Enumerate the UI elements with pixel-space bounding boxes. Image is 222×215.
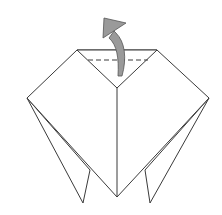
origami-diagram (0, 0, 222, 215)
